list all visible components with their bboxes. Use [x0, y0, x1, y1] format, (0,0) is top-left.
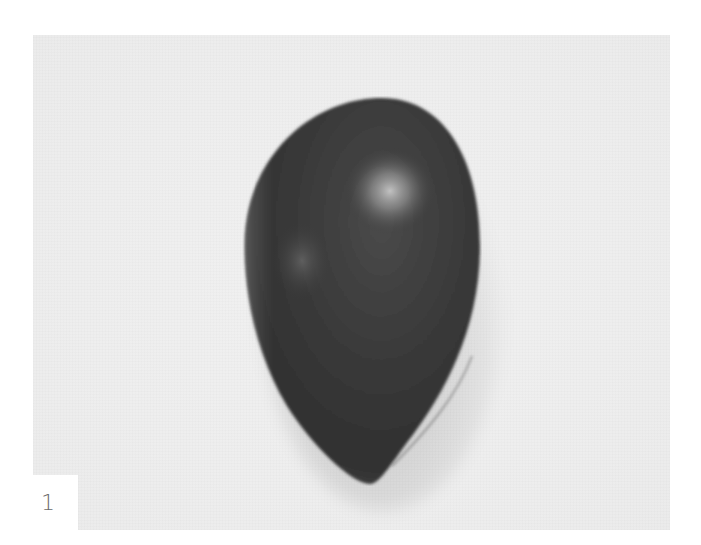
egg-object	[242, 96, 482, 486]
figure-number-label: 1	[41, 492, 55, 514]
photograph	[33, 35, 670, 530]
figure-label-box	[33, 475, 78, 530]
